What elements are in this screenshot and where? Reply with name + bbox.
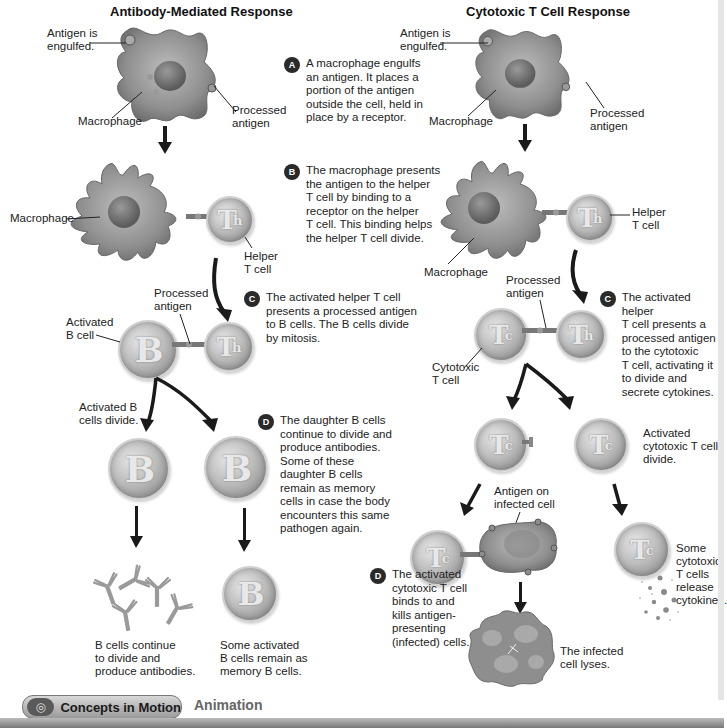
arrow-diagonal-icon xyxy=(612,484,630,518)
cytotoxic-t-cell: Tc xyxy=(574,418,628,472)
label-antigen-infected-cell: Antigen on infected cell xyxy=(494,485,555,511)
step-badge: B xyxy=(284,164,300,180)
arrow-down-icon xyxy=(238,508,252,554)
step-text: A macrophage engulfsan antigen. It place… xyxy=(306,57,423,125)
receptor-connector xyxy=(522,326,558,336)
step-d: D The daughter B cellscontinue to divide… xyxy=(258,414,392,536)
footer-band xyxy=(0,718,724,728)
label-macrophage: Macrophage xyxy=(78,115,142,128)
page-edge xyxy=(718,0,724,700)
lysed-cell-illustration xyxy=(466,608,556,688)
leader-line xyxy=(446,236,476,266)
step-text: The activated helperT cell presents apro… xyxy=(622,291,724,399)
memory-b-cell: B xyxy=(222,566,278,622)
step-badge: A xyxy=(284,57,300,73)
leader-line xyxy=(244,236,254,250)
curved-arrow-icon xyxy=(208,258,238,324)
label-antibodies: B cells continue to divide and produce a… xyxy=(95,639,195,678)
arrow-down-icon xyxy=(518,124,532,156)
step-d-right: D The activatedcytotoxic T cellbinds to … xyxy=(370,568,469,649)
step-text: The activated helper T cellpresents a pr… xyxy=(266,291,417,345)
label-processed-antigen: Processed antigen xyxy=(154,287,208,313)
arrow-down-icon xyxy=(158,126,172,156)
helper-t-cell: Th xyxy=(556,310,606,360)
leader-line xyxy=(584,80,608,110)
step-b: B The macrophage presentsthe antigen to … xyxy=(284,164,440,245)
step-a: A A macrophage engulfsan antigen. It pla… xyxy=(284,57,423,125)
concepts-in-motion-button[interactable]: ◎ Concepts in Motion xyxy=(22,695,182,719)
leader-line xyxy=(610,213,632,217)
leader-line xyxy=(96,334,122,344)
split-arrows-icon xyxy=(506,364,586,414)
animation-link[interactable]: Animation xyxy=(194,697,262,713)
antibodies-illustration xyxy=(96,568,206,638)
daughter-b-cell: B xyxy=(108,438,170,500)
label-memory-b-cells: Some activated B cells remain as memory … xyxy=(220,639,308,678)
label-processed-antigen: Processed antigen xyxy=(590,107,644,133)
label-helper-t-cell: Helper T cell xyxy=(244,250,278,276)
step-badge: D xyxy=(370,568,386,584)
concepts-in-motion-label: Concepts in Motion xyxy=(60,700,181,715)
step-badge: C xyxy=(600,291,616,307)
cytotoxic-t-cell: Tc xyxy=(474,418,528,472)
step-c: C The activated helper T cellpresents a … xyxy=(244,291,417,345)
label-helper-t-cell: Helper T cell xyxy=(632,206,666,232)
step-text: The macrophage presentsthe antigen to th… xyxy=(306,164,440,245)
label-antigen-engulfed: Antigen is engulfed. xyxy=(47,27,98,53)
concentric-circles-icon: ◎ xyxy=(27,698,54,716)
label-antigen-engulfed: Antigen is engulfed. xyxy=(400,27,451,53)
label-macrophage: Macrophage xyxy=(10,212,74,225)
label-tc-divide: Activated cytotoxic T cells divide. xyxy=(643,427,724,466)
label-b-cells-divide: Activated B cells divide. xyxy=(79,401,138,427)
label-processed-antigen: Processed antigen xyxy=(506,274,560,300)
split-arrows-icon xyxy=(140,378,230,434)
leader-line xyxy=(178,314,192,346)
label-macrophage: Macrophage xyxy=(429,115,493,128)
step-badge: D xyxy=(258,414,274,430)
curved-arrow-icon xyxy=(566,250,596,306)
right-panel-title: Cytotoxic T Cell Response xyxy=(466,4,630,19)
cytotoxic-t-cell: Tc xyxy=(614,522,670,578)
label-macrophage: Macrophage xyxy=(424,266,488,279)
label-processed-antigen: Processed antigen xyxy=(232,104,286,130)
label-cytotoxic-t-cell: Cytotoxic T cell xyxy=(432,361,479,387)
left-panel-title: Antibody-Mediated Response xyxy=(110,4,293,19)
step-text: The activatedcytotoxic T cellbinds to an… xyxy=(392,568,469,649)
leader-line xyxy=(466,88,500,118)
step-badge: C xyxy=(244,291,260,307)
step-c-right: C The activated helperT cell presents ap… xyxy=(600,291,724,399)
arrow-down-icon xyxy=(130,506,144,550)
helper-t-cell: Th xyxy=(566,194,614,242)
activated-b-cell: B xyxy=(118,320,178,380)
arrow-diagonal-icon xyxy=(460,484,484,516)
macrophage-illustration xyxy=(60,160,190,270)
step-text: The daughter B cellscontinue to divide a… xyxy=(280,414,392,536)
label-infected-cell-lyses: The infected cell lyses. xyxy=(560,645,623,671)
receptor-stub xyxy=(522,436,534,448)
infected-cell-illustration xyxy=(478,518,560,576)
